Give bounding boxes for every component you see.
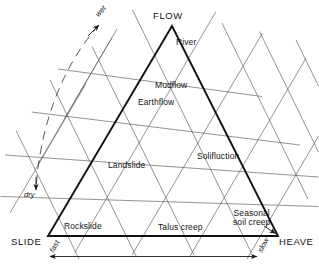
- vertex-label-flow: FLOW: [153, 11, 183, 21]
- field-label-seasonal-soil-creep-line2: soil creep: [233, 218, 270, 227]
- vertex-label-heave: HEAVE: [279, 237, 314, 247]
- field-label-river: River: [176, 38, 196, 47]
- ternary-diagram: FLOW SLIDE HEAVE River Mudflow Earthflow…: [0, 0, 319, 272]
- field-label-mudflow: Mudflow: [155, 81, 187, 90]
- field-label-earthflow: Earthflow: [138, 98, 174, 107]
- triangle-outline: [48, 26, 278, 236]
- field-label-landslide: Landslide: [108, 161, 145, 170]
- field-label-rockslide: Rockslide: [64, 222, 102, 231]
- vertex-label-slide: SLIDE: [11, 237, 41, 247]
- field-label-talus-creep: Talus creep: [158, 223, 203, 232]
- field-label-seasonal-soil-creep: Seasonal soil creep: [233, 209, 270, 226]
- axis-label-dry: dry: [24, 191, 35, 199]
- field-label-solifluction: Solifluction: [197, 152, 239, 161]
